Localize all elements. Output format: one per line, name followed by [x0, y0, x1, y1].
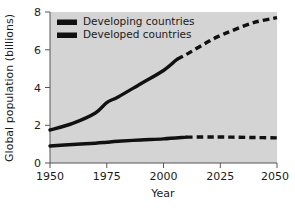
y-tick-label-4: 4 [34, 82, 41, 95]
y-axis-ticks [45, 12, 50, 163]
series-line-developed-countries-projection [186, 137, 277, 138]
legend-swatch-developing-icon [57, 20, 77, 26]
y-tick-label-0: 0 [34, 157, 41, 170]
x-tick-label-1950: 1950 [36, 170, 64, 183]
y-tick-label-8: 8 [34, 6, 41, 19]
x-axis-ticks [50, 163, 277, 168]
x-axis-title: Year [150, 187, 175, 200]
x-tick-label-2025: 2025 [206, 170, 234, 183]
x-tick-label-2000: 2000 [150, 170, 178, 183]
legend-label-developing: Developing countries [83, 15, 195, 27]
population-line-chart: 8 6 4 2 0 1950 1975 2000 2025 2050 Year … [0, 0, 295, 208]
x-tick-label-2050: 2050 [261, 170, 289, 183]
y-axis-title: Global population (billions) [3, 14, 16, 162]
x-tick-label-1975: 1975 [93, 170, 121, 183]
y-tick-label-2: 2 [34, 119, 41, 132]
legend-label-developed: Developed countries [83, 28, 191, 40]
legend-swatch-developed-icon [57, 33, 77, 39]
y-tick-label-6: 6 [34, 44, 41, 57]
chart-figure: 8 6 4 2 0 1950 1975 2000 2025 2050 Year … [0, 0, 295, 208]
